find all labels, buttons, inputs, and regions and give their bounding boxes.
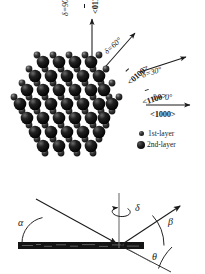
second-layer-atom bbox=[29, 70, 42, 83]
label-direction-0110: <0110> bbox=[90, 0, 100, 14]
second-layer-atom bbox=[61, 126, 74, 139]
first-layer-atom bbox=[109, 80, 116, 87]
legend-item-1st-layer: 1st-layer bbox=[139, 130, 174, 138]
second-layer-atom bbox=[61, 70, 74, 83]
second-layer-atom bbox=[53, 84, 66, 97]
second-layer-atom bbox=[29, 98, 42, 111]
second-layer-atom bbox=[69, 112, 82, 125]
legend-label-2nd-layer: 2nd-layer bbox=[147, 141, 176, 149]
label-angle-theta: θ bbox=[152, 252, 157, 262]
theta-leader-line bbox=[128, 249, 151, 262]
second-layer-atom bbox=[53, 56, 66, 69]
second-layer-atom bbox=[45, 126, 58, 139]
second-layer-atom bbox=[98, 112, 111, 125]
second-layer-atom bbox=[85, 140, 98, 153]
label-angle-beta: β bbox=[168, 217, 173, 227]
large-filled-circle-icon bbox=[137, 141, 145, 149]
label-direction-0110-group: <0110> bbox=[84, 0, 102, 14]
label-angle-alpha: α bbox=[18, 218, 23, 228]
second-layer-atom bbox=[93, 70, 106, 83]
legend-item-2nd-layer: 2nd-layer bbox=[137, 141, 176, 149]
second-layer-atom bbox=[77, 70, 90, 83]
label-delta-0: δ = 0° bbox=[152, 94, 172, 102]
incident-beam-arrow bbox=[36, 199, 116, 243]
second-layer-atom bbox=[69, 84, 82, 97]
second-layer-atom bbox=[69, 140, 82, 153]
second-layer-atom bbox=[37, 112, 50, 125]
first-layer-atom bbox=[96, 52, 103, 59]
second-layer-atom bbox=[98, 84, 111, 97]
second-layer-atom bbox=[93, 126, 106, 139]
label-delta-90: δ=90° bbox=[62, 0, 70, 16]
first-layer-atom bbox=[116, 94, 123, 101]
small-filled-circle-icon bbox=[139, 131, 144, 136]
overline-0110 bbox=[84, 5, 85, 9]
legend-label-1st-layer: 1st-layer bbox=[148, 130, 174, 138]
second-layer-atom bbox=[69, 56, 82, 69]
second-layer-atom bbox=[77, 126, 90, 139]
theta-angle-arc bbox=[159, 247, 173, 269]
second-layer-atom bbox=[37, 84, 50, 97]
second-layer-atom bbox=[77, 98, 90, 111]
second-layer-atom bbox=[21, 84, 34, 97]
second-layer-atom bbox=[61, 98, 74, 111]
top-panel-lattice bbox=[0, 0, 205, 274]
second-layer-atom bbox=[93, 98, 106, 111]
second-layer-atom bbox=[14, 98, 27, 111]
second-layer-atom bbox=[45, 98, 58, 111]
second-layer-atom bbox=[85, 56, 98, 69]
second-layer-atom bbox=[29, 126, 42, 139]
label-direction-1000: <1000> bbox=[150, 110, 176, 119]
second-layer-atom bbox=[53, 112, 66, 125]
alpha-angle-arc bbox=[22, 218, 43, 243]
second-layer-atom bbox=[21, 112, 34, 125]
label-angle-delta: δ bbox=[135, 203, 140, 213]
first-layer-atom bbox=[103, 66, 110, 73]
second-layer-atom bbox=[85, 84, 98, 97]
figure-container: δ=90° <0110> δ=60° <0100> δ=30° <1100> δ… bbox=[0, 0, 205, 274]
overline-0100 bbox=[125, 69, 129, 72]
second-layer-atom bbox=[106, 98, 119, 111]
overline-1100 bbox=[144, 89, 148, 91]
second-layer-atom bbox=[37, 56, 50, 69]
second-layer-atom bbox=[45, 70, 58, 83]
second-layer-atom bbox=[85, 112, 98, 125]
second-layer-atom bbox=[37, 140, 50, 153]
azimuth-rotation-arc bbox=[112, 208, 130, 217]
second-layer-atom bbox=[53, 140, 66, 153]
